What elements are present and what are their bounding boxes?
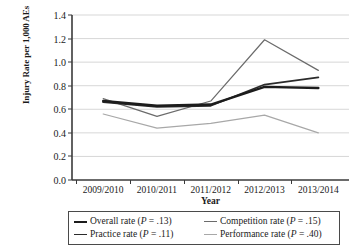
legend-entry-competition-rate[interactable]: Competition rate (P = .15) [204,215,334,228]
legend-entry-practice-rate[interactable]: Practice rate (P = .11) [74,228,204,241]
plot-svg [72,15,349,180]
y-tick-mark [68,180,72,181]
x-tick-label: 2012/2013 [244,185,285,195]
x-axis-title: Year [72,196,349,206]
legend-label-competition-rate: Competition rate (P = .15) [220,215,321,228]
chart-figure: Injury Rate per 1,000 AEs 0.00.20.40.60.… [0,0,356,249]
x-tick-mark [130,180,131,184]
series-line-practice-rate [103,77,318,106]
x-tick-label: 2009/2010 [83,185,124,195]
x-tick-label: 2010/2011 [137,185,177,195]
x-tick-mark [238,180,239,184]
x-tick-mark [76,180,77,184]
x-tick-mark [291,180,292,184]
y-tick-label: 0.2 [36,151,66,162]
y-tick-label: 0.0 [36,175,66,186]
y-tick-label: 1.0 [36,57,66,68]
gridlines [72,15,349,156]
series-line-overall-rate [103,87,318,106]
y-tick-label: 0.6 [36,104,66,115]
y-tick-mark [68,109,72,110]
y-tick-label: 0.4 [36,127,66,138]
series-line-performance-rate [103,114,318,133]
y-axis-title: Injury Rate per 1,000 AEs [21,0,31,135]
y-tick-mark [68,132,72,133]
legend-swatch-competition-rate [204,221,217,222]
legend-label-practice-rate: Practice rate (P = .11) [90,228,173,241]
x-tick-mark [184,180,185,184]
legend-entry-overall-rate[interactable]: Overall rate (P = .13) [74,215,204,228]
y-tick-mark [68,156,72,157]
y-tick-mark [68,38,72,39]
y-tick-mark [68,62,72,63]
x-tick-label: 2011/2012 [191,185,231,195]
legend-swatch-practice-rate [74,234,87,235]
legend-row: Overall rate (P = .13) Competition rate … [74,215,334,228]
chart-legend: Overall rate (P = .13) Competition rate … [68,211,340,245]
x-tick-label: 2013/2014 [298,185,339,195]
legend-swatch-performance-rate [204,234,217,235]
y-tick-label: 0.8 [36,80,66,91]
legend-label-overall-rate: Overall rate (P = .13) [90,215,172,228]
y-tick-label: 1.4 [36,10,66,21]
legend-swatch-overall-rate [74,221,87,223]
series-lines [103,40,318,133]
y-tick-label: 1.2 [36,33,66,44]
legend-label-performance-rate: Performance rate (P = .40) [220,228,322,241]
y-tick-mark [68,15,72,16]
legend-entry-performance-rate[interactable]: Performance rate (P = .40) [204,228,334,241]
legend-row: Practice rate (P = .11) Performance rate… [74,228,334,241]
plot-area: 0.00.20.40.60.81.01.21.4 2009/20102010/2… [72,15,349,180]
y-tick-mark [68,85,72,86]
